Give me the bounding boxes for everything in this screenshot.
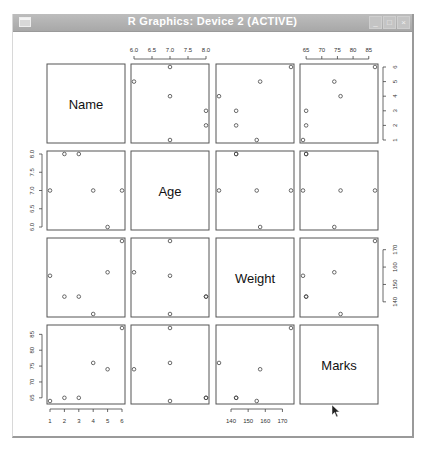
scatter-panel-name-vs-marks (300, 64, 378, 143)
tick-label: 5 (106, 418, 110, 424)
diagonal-panel-name: Name (47, 64, 125, 143)
tick-label: 2 (63, 418, 67, 424)
scatter-panel-weight-vs-age (131, 238, 209, 317)
variable-label: Marks (321, 358, 357, 373)
top-axis-marks: 6570758085 (303, 47, 373, 59)
scatter-panel-weight-vs-marks (300, 238, 378, 317)
tick-label: 170 (277, 418, 288, 424)
variable-label: Weight (235, 271, 276, 286)
scatter-panel-age-vs-weight (216, 151, 294, 230)
diagonal-panel-age: Age (131, 151, 209, 230)
tick-label: 160 (260, 418, 271, 424)
tick-label: 85 (365, 47, 372, 53)
tick-label: 5 (392, 79, 398, 83)
tick-label: 6.5 (29, 204, 35, 213)
tick-label: 8.0 (202, 47, 211, 53)
tick-label: 6 (120, 418, 124, 424)
tick-label: 160 (392, 261, 398, 272)
tick-label: 75 (334, 47, 341, 53)
tick-label: 75 (29, 362, 35, 369)
scatter-panel-marks-vs-age (131, 325, 209, 404)
tick-label: 6.0 (130, 47, 139, 53)
tick-label: 6 (392, 65, 398, 69)
scatter-panel-name-vs-age (131, 64, 209, 143)
scatter-panel-marks-vs-weight (216, 325, 294, 404)
right-axis-weight: 140150160170 (383, 244, 398, 307)
tick-label: 65 (303, 47, 310, 53)
tick-label: 4 (392, 94, 398, 98)
left-axis-marks: 6570758085 (29, 330, 42, 401)
bottom-axis-weight: 140150160170 (226, 409, 288, 424)
right-axis-name: 123456 (383, 65, 398, 142)
variable-label: Name (69, 97, 104, 112)
variable-label: Age (158, 184, 181, 199)
tick-label: 150 (392, 279, 398, 290)
tick-label: 170 (392, 244, 398, 255)
tick-label: 4 (92, 418, 96, 424)
tick-label: 1 (48, 418, 52, 424)
tick-label: 7.5 (184, 47, 193, 53)
tick-label: 85 (29, 330, 35, 337)
tick-label: 80 (350, 47, 357, 53)
tick-label: 7.0 (29, 186, 35, 195)
tick-label: 8.0 (29, 149, 35, 158)
tick-label: 140 (226, 418, 237, 424)
tick-label: 6.0 (29, 222, 35, 231)
scatter-panel-age-vs-marks (300, 151, 378, 230)
tick-label: 70 (318, 47, 325, 53)
left-axis-age: 6.06.57.07.58.0 (29, 149, 42, 231)
tick-label: 7.5 (29, 167, 35, 176)
scatter-panel-marks-vs-name (47, 325, 125, 404)
scatter-panel-weight-vs-name (47, 238, 125, 317)
scatterplot-matrix: NameAgeWeightMarks1234566.06.57.07.58.01… (0, 0, 428, 454)
mouse-cursor-icon (331, 404, 341, 418)
bottom-axis-name: 123456 (48, 409, 124, 424)
tick-label: 70 (29, 378, 35, 385)
tick-label: 1 (392, 138, 398, 142)
diagonal-panel-weight: Weight (216, 238, 294, 317)
tick-label: 65 (29, 394, 35, 401)
tick-label: 7.0 (166, 47, 175, 53)
tick-label: 80 (29, 346, 35, 353)
scatter-panel-name-vs-weight (216, 64, 294, 143)
tick-label: 6.5 (148, 47, 157, 53)
scatter-panel-age-vs-name (47, 151, 125, 230)
top-axis-age: 6.06.57.07.58.0 (130, 47, 211, 59)
diagonal-panel-marks: Marks (300, 325, 378, 404)
tick-label: 140 (392, 296, 398, 307)
tick-label: 3 (392, 108, 398, 112)
tick-label: 3 (77, 418, 81, 424)
tick-label: 150 (243, 418, 254, 424)
tick-label: 2 (392, 123, 398, 127)
